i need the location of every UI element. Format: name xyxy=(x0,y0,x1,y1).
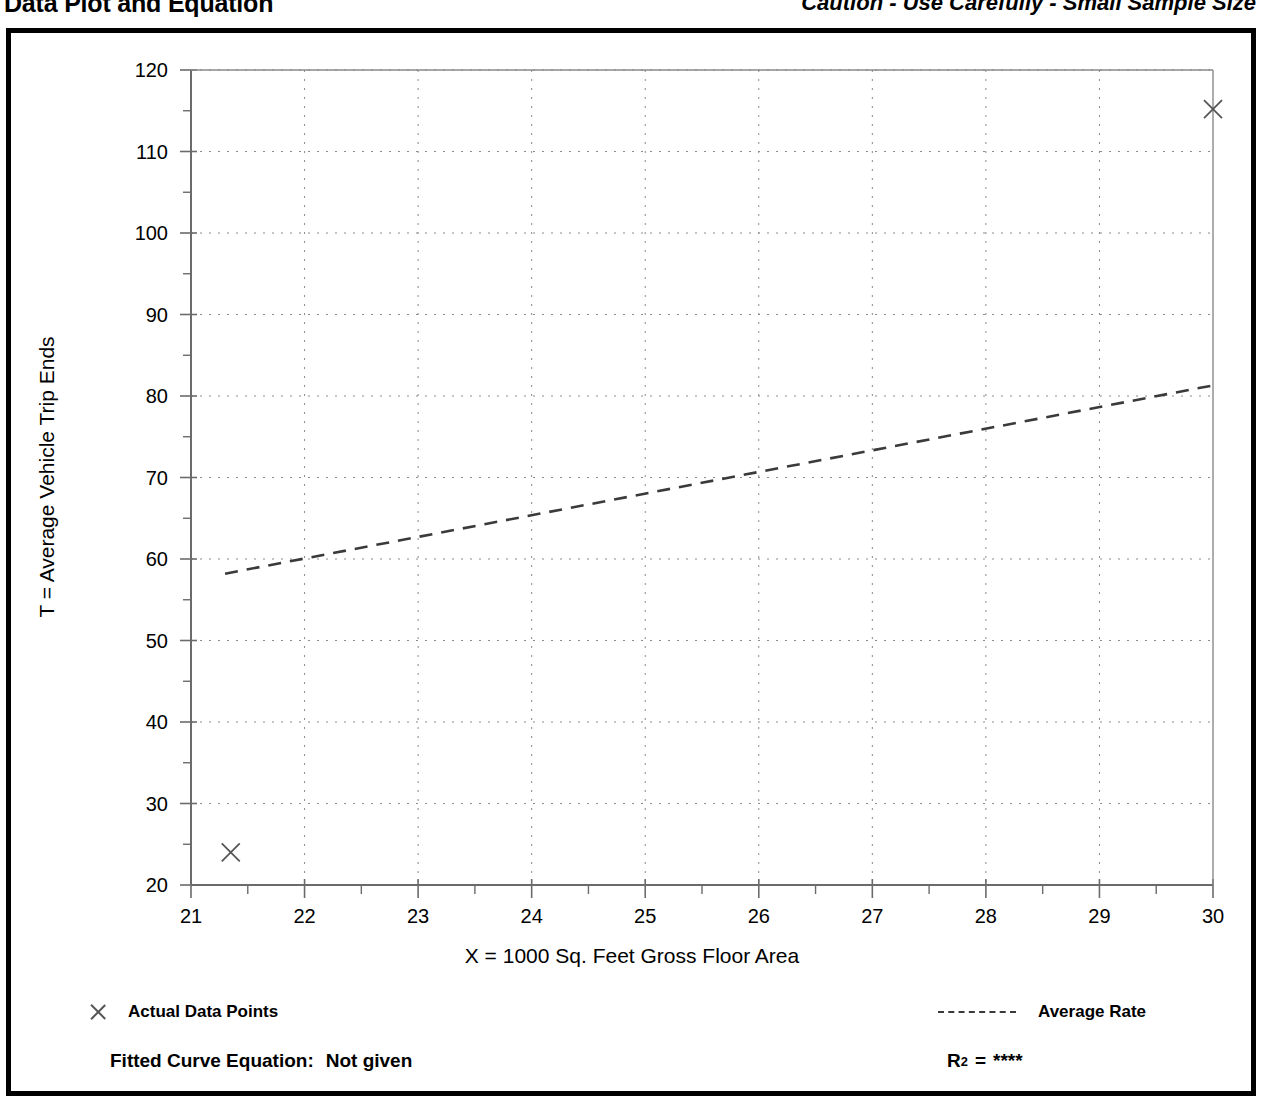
x-marker-icon xyxy=(88,1002,108,1022)
dashed-line-icon xyxy=(938,1011,1016,1013)
legend-item-average-rate: Average Rate xyxy=(938,1002,1146,1022)
y-tick-label: 50 xyxy=(108,629,168,652)
x-axis-title: X = 1000 Sq. Feet Gross Floor Area xyxy=(0,944,1264,968)
y-tick-label: 110 xyxy=(108,140,168,163)
y-axis-title: T = Average Vehicle Trip Ends xyxy=(35,336,59,617)
x-tick-label: 30 xyxy=(1183,905,1243,928)
y-tick-label: 90 xyxy=(108,303,168,326)
r2-equals-sign: = xyxy=(975,1050,986,1072)
x-tick-label: 22 xyxy=(275,905,335,928)
x-tick-label: 26 xyxy=(729,905,789,928)
equation-value: Not given xyxy=(326,1050,413,1072)
equation-label: Fitted Curve Equation: xyxy=(110,1050,314,1072)
caution-note: Caution - Use Carefully - Small Sample S… xyxy=(801,0,1256,16)
x-tick-label: 27 xyxy=(842,905,902,928)
y-tick-label: 70 xyxy=(108,466,168,489)
x-tick-label: 25 xyxy=(615,905,675,928)
y-tick-label: 80 xyxy=(108,385,168,408)
legend-item-data-points: Actual Data Points xyxy=(88,1002,278,1022)
x-tick-label: 29 xyxy=(1069,905,1129,928)
legend-label-average-rate: Average Rate xyxy=(1038,1002,1146,1022)
x-tick-label: 23 xyxy=(388,905,448,928)
page-title: Data Plot and Equation xyxy=(4,0,273,18)
y-tick-label: 100 xyxy=(108,222,168,245)
r2-label: R xyxy=(947,1050,961,1072)
x-tick-label: 21 xyxy=(161,905,221,928)
y-tick-label: 40 xyxy=(108,711,168,734)
r-squared-value: R 2 = **** xyxy=(947,1050,1023,1072)
page-header: Data Plot and Equation Caution - Use Car… xyxy=(0,0,1264,26)
chart-frame xyxy=(6,28,1256,1096)
x-tick-label: 24 xyxy=(502,905,562,928)
r2-stars: **** xyxy=(993,1050,1023,1072)
y-tick-label: 120 xyxy=(108,59,168,82)
x-tick-label: 28 xyxy=(956,905,1016,928)
y-tick-label: 60 xyxy=(108,548,168,571)
fitted-curve-equation: Fitted Curve Equation: Not given xyxy=(110,1050,412,1072)
y-tick-label: 20 xyxy=(108,874,168,897)
r2-exponent: 2 xyxy=(961,1054,968,1069)
legend-label-data-points: Actual Data Points xyxy=(128,1002,278,1022)
y-tick-label: 30 xyxy=(108,792,168,815)
